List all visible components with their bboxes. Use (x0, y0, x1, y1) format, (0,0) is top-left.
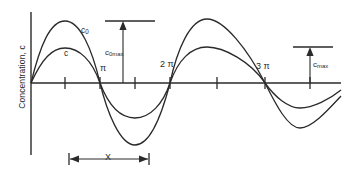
x-tick-label-2pi: 2 π (160, 60, 174, 69)
curve-c0 (31, 19, 341, 145)
x-tick-label-pi: π (100, 64, 106, 73)
c0max-label: c0max (105, 49, 123, 58)
cmax-label: cmax (313, 61, 328, 70)
x-span-arrow-head-left (70, 155, 79, 162)
curve-label-c0-subscript: 0 (85, 28, 89, 35)
x-span-arrow-head-right (139, 155, 148, 162)
cmax-label-subscript: max (317, 63, 328, 69)
plot-canvas (0, 0, 352, 179)
c0max-arrow-head (119, 21, 126, 30)
cmax-arrow-head (306, 47, 313, 56)
c0max-label-subscript: 0max (109, 51, 123, 57)
curve-label-c: c (64, 49, 68, 58)
concentration-wave-figure: Concentration, c (0, 0, 352, 179)
wavelength-label: X (105, 153, 111, 162)
curve-label-c0: c0 (81, 26, 89, 36)
x-tick-label-3pi: 3 π (256, 62, 270, 71)
